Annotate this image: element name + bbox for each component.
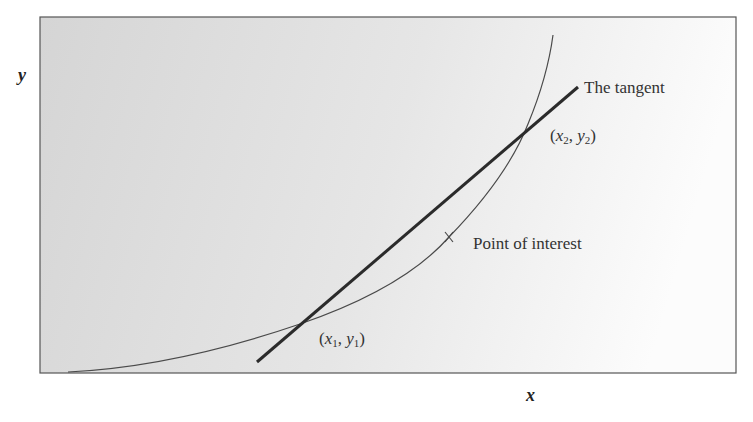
point1-label: (x1, y1) xyxy=(319,330,365,349)
y-axis-label: y xyxy=(18,66,26,84)
point2-label: (x2, y2) xyxy=(550,127,596,146)
point-of-interest-label: Point of interest xyxy=(473,235,582,252)
plot-area xyxy=(40,17,736,373)
tangent-diagram xyxy=(0,0,753,422)
tangent-label: The tangent xyxy=(584,79,665,96)
x-axis-label: x xyxy=(526,386,535,404)
